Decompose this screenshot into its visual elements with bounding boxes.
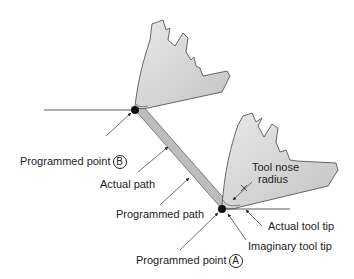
tool-b bbox=[135, 20, 230, 109]
label-programmed-point-b: Programmed pointB bbox=[20, 155, 127, 169]
marker-b: B bbox=[113, 155, 127, 169]
label-programmed-point-a: Programmed pointA bbox=[136, 254, 243, 268]
label-tool-nose-1: Tool nose bbox=[252, 161, 299, 173]
tool-path-diagram bbox=[0, 0, 354, 279]
label-programmed-path: Programmed path bbox=[116, 208, 204, 220]
marker-a: A bbox=[229, 254, 243, 268]
programmed-point-b-marker bbox=[131, 106, 139, 114]
actual-path-band bbox=[135, 104, 228, 209]
label-imaginary-tool-tip: Imaginary tool tip bbox=[248, 240, 332, 252]
label-tool-nose-2: radius bbox=[258, 173, 288, 185]
programmed-point-a-marker bbox=[218, 205, 226, 213]
label-actual-path: Actual path bbox=[100, 178, 155, 190]
label-actual-tool-tip: Actual tool tip bbox=[268, 220, 334, 232]
